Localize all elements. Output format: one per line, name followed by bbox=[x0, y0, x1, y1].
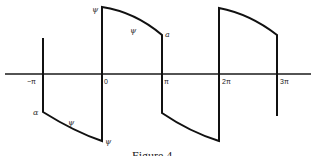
psi-lower-curve-label: ψ bbox=[68, 118, 75, 127]
waveform-figure: −π 0 π 2π 3π ψ ψ a α ψ ψ Figure 4 bbox=[0, 0, 311, 156]
alpha-label: α bbox=[33, 108, 39, 117]
a-label: a bbox=[165, 30, 170, 39]
psi-top-label: ψ bbox=[92, 5, 99, 14]
tick-label-3pi: 3π bbox=[280, 78, 289, 85]
tick-label-zero: 0 bbox=[104, 78, 108, 85]
tick-label-pi: π bbox=[164, 78, 169, 85]
figure-caption: Figure 4 bbox=[132, 149, 172, 156]
psi-upper-curve-label: ψ bbox=[130, 26, 137, 35]
tick-label-2pi: 2π bbox=[222, 78, 231, 85]
psi-bottom-label: ψ bbox=[105, 137, 112, 146]
tick-label-neg-pi: −π bbox=[27, 78, 36, 85]
